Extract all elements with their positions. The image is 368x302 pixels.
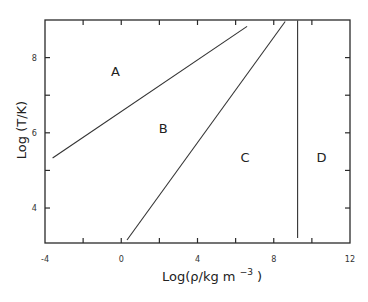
x-axis-label-close: ) <box>257 269 262 284</box>
region-labels: ABCD <box>111 64 326 165</box>
boundary-lines <box>53 20 298 240</box>
y-tick-label: 8 <box>32 53 37 63</box>
x-axis-label: Log(ρ/kg m −3 ) <box>162 263 262 284</box>
region-label-d: D <box>316 150 326 165</box>
region-label-c: C <box>241 150 250 165</box>
tick-labels: -404812468 <box>32 53 355 264</box>
phase-diagram-chart: -404812468 ABCD Log (T/K) Log(ρ/kg m −3 … <box>0 0 368 302</box>
y-axis-label: Log (T/K) <box>14 101 29 159</box>
region-label-b: B <box>159 121 168 136</box>
x-tick-label: 4 <box>195 254 200 264</box>
x-axis-label-superscript: −3 <box>240 267 253 277</box>
y-tick-label: 4 <box>32 203 37 213</box>
x-tick-label: 0 <box>119 254 124 264</box>
plot-frame <box>45 20 350 243</box>
region-label-a: A <box>111 64 120 79</box>
x-tick-label: 12 <box>345 254 355 264</box>
axis-ticks <box>45 20 350 243</box>
plot-border <box>45 20 350 243</box>
x-tick-label: 8 <box>271 254 276 264</box>
boundary-line <box>53 26 248 158</box>
x-axis-label-main: Log(ρ/kg m <box>162 269 236 284</box>
y-tick-label: 6 <box>32 128 37 138</box>
x-tick-label: -4 <box>41 254 49 264</box>
